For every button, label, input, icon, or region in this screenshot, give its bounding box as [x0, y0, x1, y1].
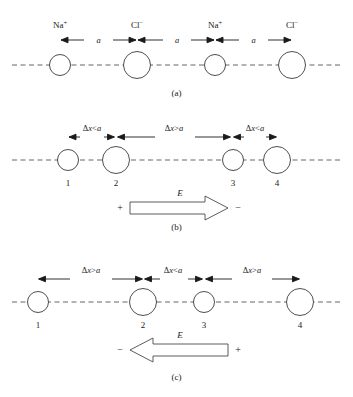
field-sign-left-c: − — [117, 344, 123, 355]
ion-circle-na-2 — [205, 55, 226, 76]
dimension-label-b-1: Δx<a — [83, 123, 101, 133]
ion-circle-b-3 — [223, 150, 244, 171]
ion-label-cl-2: Cl− — [286, 19, 299, 31]
ion-circle-c-3 — [194, 292, 215, 313]
field-sign-right-c: + — [235, 344, 241, 355]
dimension-label-b-2: Δx>a — [165, 123, 183, 133]
ion-circle-b-2 — [103, 147, 130, 174]
dimension-a-1: a — [61, 35, 136, 45]
ion-circle-c-1 — [28, 292, 49, 313]
electric-field-arrow-c: − E + — [117, 330, 241, 362]
dimension-b-3: Δx<a — [234, 123, 277, 140]
dimension-c-2: Δx<a — [145, 265, 203, 282]
dimension-c-1: Δx>a — [39, 265, 143, 282]
panel-caption-a: (a) — [0, 88, 353, 98]
dimension-a-2: a — [138, 35, 214, 45]
ion-number-b-4: 4 — [275, 178, 280, 188]
electric-field-arrow-b: + E − — [117, 188, 241, 220]
field-sign-left-b: + — [117, 202, 123, 213]
ion-number-b-3: 3 — [231, 178, 236, 188]
dimension-label-a-1: a — [96, 35, 100, 45]
ion-number-b-1: 1 — [66, 178, 71, 188]
ion-number-b-2: 2 — [114, 178, 119, 188]
ion-circle-c-4 — [287, 289, 314, 316]
panel-caption-b: (b) — [0, 222, 353, 232]
field-sign-right-b: − — [235, 202, 241, 213]
panel-b: Δx<a Δx>a Δx<a 1 2 3 — [0, 112, 353, 232]
ion-label-na-1: Na+ — [53, 19, 68, 31]
ion-number-c-2: 2 — [141, 320, 146, 330]
ion-circle-cl-2 — [279, 52, 306, 79]
ion-number-c-3: 3 — [202, 320, 207, 330]
dimension-label-a-3: a — [251, 35, 255, 45]
ion-circle-cl-1 — [124, 52, 151, 79]
dimension-a-3: a — [216, 35, 291, 45]
dimension-c-3: Δx>a — [206, 265, 300, 282]
dimension-b-2: Δx>a — [118, 123, 231, 140]
dimension-b-1: Δx<a — [69, 123, 115, 140]
ion-circle-na-1 — [50, 55, 71, 76]
field-arrow-shape-b — [130, 196, 228, 220]
panel-c: Δx>a Δx<a Δx>a 1 2 3 — [0, 254, 353, 374]
ion-circle-b-4 — [264, 147, 291, 174]
ion-circle-c-2 — [130, 289, 157, 316]
ion-number-c-4: 4 — [298, 320, 303, 330]
ion-label-na-2: Na+ — [208, 19, 223, 31]
ion-label-cl-1: Cl− — [131, 19, 144, 31]
field-arrow-shape-c — [130, 338, 228, 362]
ionic-chain-figure: Na+ Cl− Na+ Cl− a a — [0, 0, 353, 397]
field-symbol-b: E — [176, 188, 183, 198]
ion-number-c-1: 1 — [36, 320, 41, 330]
dimension-label-a-2: a — [175, 35, 179, 45]
field-symbol-c: E — [176, 330, 183, 340]
dimension-label-c-1: Δx>a — [82, 265, 100, 275]
panel-caption-c: (c) — [0, 372, 353, 382]
dimension-label-c-2: Δx<a — [164, 265, 182, 275]
dimension-label-c-3: Δx>a — [243, 265, 261, 275]
ion-circle-b-1 — [58, 150, 79, 171]
dimension-label-b-3: Δx<a — [246, 123, 264, 133]
